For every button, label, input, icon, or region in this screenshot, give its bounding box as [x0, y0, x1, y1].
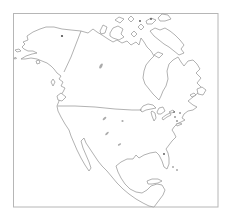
island-bathurst — [128, 16, 134, 22]
dot-arctic-1 — [139, 20, 141, 22]
island-cuba — [147, 179, 162, 184]
island-southampton — [154, 52, 163, 58]
island-aleutian-islet — [14, 58, 17, 60]
dot-florida — [163, 153, 165, 155]
island-king-william — [131, 31, 137, 37]
island-baffin — [150, 28, 184, 55]
dot-bahamas-2 — [176, 169, 177, 170]
island-kodiak — [36, 60, 40, 64]
dot-northeast-3 — [174, 116, 176, 118]
dot-northeast-1 — [173, 111, 175, 113]
dot-alaska — [61, 35, 63, 37]
island-newfoundland — [197, 87, 206, 95]
lake-smudge-plains-2 — [121, 120, 123, 122]
island-melville — [115, 17, 124, 23]
island-ellesmere — [158, 14, 171, 21]
island-haida-gwaii — [51, 79, 55, 86]
dot-bahamas-1 — [172, 166, 173, 167]
dot-northeast-4 — [176, 120, 178, 122]
island-banks — [100, 25, 107, 34]
screenshot-root — [0, 0, 233, 223]
island-long-island — [176, 123, 182, 126]
island-victoria — [110, 26, 124, 40]
dot-arctic-2 — [150, 18, 152, 20]
dot-northeast-2 — [179, 112, 181, 114]
island-somerset — [138, 24, 144, 30]
north-america-outline-map — [0, 0, 233, 223]
island-st-lawrence — [15, 49, 21, 52]
